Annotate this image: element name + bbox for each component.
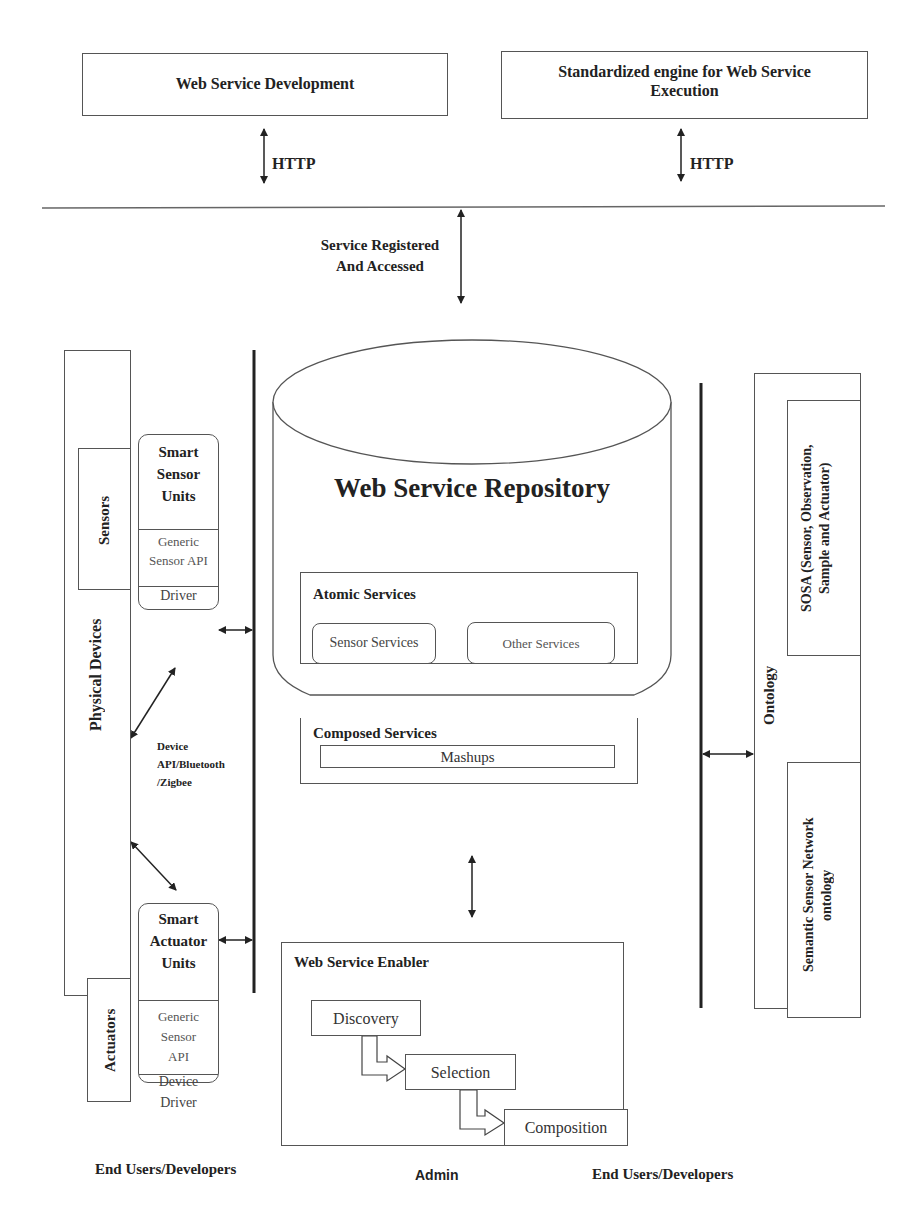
actuator-api-section: Generic Sensor API <box>139 1000 218 1075</box>
footer-left-label: End Users/Developers <box>95 1160 236 1178</box>
protocol-label: Device API/Bluetooth /Zigbee <box>157 737 225 791</box>
step-selection: Selection <box>405 1054 516 1090</box>
composed-services-box: Composed Services Mashups <box>300 718 638 784</box>
enabler-title: Web Service Enabler <box>294 953 429 971</box>
repository-title: Web Service Repository <box>273 472 671 504</box>
repository-cylinder-top <box>273 340 671 464</box>
ssn-label: Semantic Sensor Network ontology <box>800 780 835 1010</box>
mashups-box: Mashups <box>320 745 615 768</box>
step-composition: Composition <box>504 1109 628 1146</box>
sensors-label: Sensors <box>95 470 114 570</box>
sensor-api-section: Generic Sensor API <box>139 529 218 587</box>
sosa-label: SOSA (Sensor, Observation, Sample and Ac… <box>798 410 833 646</box>
web-service-development-box: Web Service Development <box>82 53 448 116</box>
web-service-development-label: Web Service Development <box>83 74 447 93</box>
divider-line <box>42 206 885 208</box>
http-left-label: HTTP <box>272 154 316 173</box>
actuator-driver-label: Device Driver <box>139 1071 218 1113</box>
atomic-services-title: Atomic Services <box>313 585 416 603</box>
footer-center-label: Admin <box>415 1167 459 1184</box>
smart-actuator-unit-title: Smart Actuator Units <box>139 908 218 974</box>
sensor-services-box: Sensor Services <box>312 623 436 664</box>
atomic-services-box: Atomic Services Sensor Services Other Se… <box>300 572 638 664</box>
http-right-label: HTTP <box>690 154 734 173</box>
step-discovery: Discovery <box>311 1000 421 1036</box>
physical-devices-label: Physical Devices <box>86 580 106 770</box>
smart-sensor-unit-title: Smart Sensor Units <box>139 441 218 507</box>
smart-sensor-unit: Smart Sensor Units Generic Sensor API Dr… <box>138 434 219 610</box>
sensor-driver-label: Driver <box>139 588 218 605</box>
execution-engine-box: Standardized engine for Web Service Exec… <box>501 51 868 119</box>
footer-right-label: End Users/Developers <box>592 1165 733 1183</box>
composed-services-title: Composed Services <box>313 724 437 742</box>
other-services-box: Other Services <box>467 622 615 664</box>
registered-label: Service Registered And Accessed <box>305 236 455 275</box>
smart-actuator-unit: Smart Actuator Units Generic Sensor API … <box>138 903 219 1083</box>
ontology-label: Ontology <box>760 650 779 740</box>
actuators-label: Actuators <box>101 990 120 1090</box>
execution-engine-label: Standardized engine for Web Service Exec… <box>532 62 837 100</box>
